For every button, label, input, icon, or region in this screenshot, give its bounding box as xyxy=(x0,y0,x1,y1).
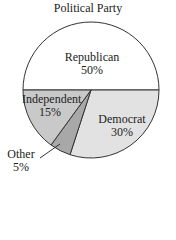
other-leader-line xyxy=(40,144,60,158)
label-republican: Republican 50% xyxy=(62,51,122,77)
label-independent-value: 15% xyxy=(22,106,78,119)
label-other: Other 5% xyxy=(6,148,36,174)
label-republican-value: 50% xyxy=(62,64,122,77)
label-other-value: 5% xyxy=(6,161,36,174)
label-independent: Independent 15% xyxy=(22,93,78,119)
label-democrat: Democrat 30% xyxy=(94,113,150,139)
label-democrat-value: 30% xyxy=(94,126,150,139)
